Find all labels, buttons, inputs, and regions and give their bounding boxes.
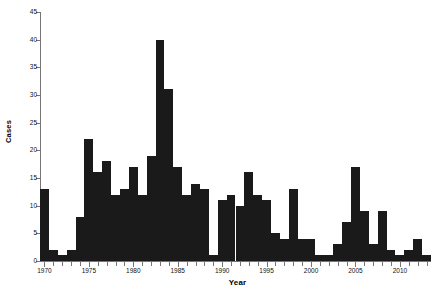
x-tick-minor	[124, 262, 125, 266]
y-tick-label: 5	[33, 230, 37, 237]
y-axis-title-text: Cases	[5, 119, 14, 142]
x-tick-minor	[187, 262, 188, 266]
x-tick-minor	[107, 262, 108, 266]
bar	[236, 206, 245, 261]
bar	[387, 250, 396, 261]
x-tick-label: 2010	[393, 268, 407, 275]
bar	[49, 250, 58, 261]
bar	[404, 250, 413, 261]
bar	[244, 172, 253, 261]
bar	[333, 244, 342, 261]
y-tick-label: 30	[30, 92, 37, 99]
x-tick-minor	[116, 262, 117, 266]
bar	[307, 239, 316, 261]
bar	[298, 239, 307, 261]
x-tick-minor	[382, 262, 383, 266]
bar	[120, 189, 129, 261]
x-tick-label: 2005	[348, 268, 362, 275]
x-tick-minor	[53, 262, 54, 266]
x-tick-minor	[302, 262, 303, 266]
bar	[413, 239, 422, 261]
bar	[164, 89, 173, 261]
x-tick-minor	[329, 262, 330, 266]
x-tick-minor	[258, 262, 259, 266]
x-tick-minor	[275, 262, 276, 266]
bar	[209, 255, 218, 261]
x-axis-title: Year	[38, 278, 437, 287]
x-tick-minor	[293, 262, 294, 266]
y-tick-label: 10	[30, 202, 37, 209]
x-tick-minor	[373, 262, 374, 266]
x-tick-minor	[160, 262, 161, 266]
bar	[369, 244, 378, 261]
y-axis-title: Cases	[0, 0, 18, 262]
bar	[395, 255, 404, 261]
x-tick-label: 1985	[171, 268, 185, 275]
y-tick-label: 20	[30, 147, 37, 154]
bar	[111, 195, 120, 261]
bar	[40, 189, 49, 261]
bar	[76, 217, 85, 261]
x-tick-minor	[427, 262, 428, 266]
x-tick-minor	[142, 262, 143, 266]
bar	[67, 250, 76, 261]
y-tick-label: 25	[30, 119, 37, 126]
bar	[129, 167, 138, 261]
bar	[84, 139, 93, 261]
bar-chart: Cases 051015202530354045 197019751980198…	[0, 0, 439, 298]
x-tick-label: 2000	[304, 268, 318, 275]
y-tick-label: 40	[30, 36, 37, 43]
plot-area: 051015202530354045 197019751980198519901…	[40, 12, 431, 262]
y-tick-label: 35	[30, 64, 37, 71]
bar	[191, 184, 200, 261]
bar	[182, 195, 191, 261]
x-tick-label: 1995	[259, 268, 273, 275]
x-tick-minor	[249, 262, 250, 266]
bar	[253, 195, 262, 261]
x-tick-label: 1970	[37, 268, 51, 275]
bar	[342, 222, 351, 261]
x-tick-minor	[391, 262, 392, 266]
bar	[360, 211, 369, 261]
bar	[262, 200, 271, 261]
bar	[289, 189, 298, 261]
bar	[200, 189, 209, 261]
x-tick-minor	[169, 262, 170, 266]
bar	[102, 161, 111, 261]
bar	[351, 167, 360, 261]
y-tick-label: 45	[30, 9, 37, 16]
y-tick-label: 0	[33, 258, 37, 265]
x-tick-minor	[213, 262, 214, 266]
x-tick-minor	[418, 262, 419, 266]
x-tick-minor	[409, 262, 410, 266]
x-tick-minor	[62, 262, 63, 266]
bar	[218, 200, 227, 261]
bar	[138, 195, 147, 261]
x-tick-minor	[71, 262, 72, 266]
bar	[324, 255, 333, 261]
x-tick-minor	[151, 262, 152, 266]
y-tick-label: 15	[30, 175, 37, 182]
x-tick-label: 1980	[126, 268, 140, 275]
bar	[227, 195, 236, 261]
bar	[93, 172, 102, 261]
x-tick-minor	[204, 262, 205, 266]
bar	[58, 255, 67, 261]
x-tick-label: 1975	[82, 268, 96, 275]
x-tick-minor	[338, 262, 339, 266]
bar	[147, 156, 156, 261]
bar	[422, 255, 431, 261]
x-tick-minor	[284, 262, 285, 266]
bar	[315, 255, 324, 261]
x-tick-label: 1990	[215, 268, 229, 275]
x-tick-minor	[196, 262, 197, 266]
bar	[173, 167, 182, 261]
x-tick-minor	[231, 262, 232, 266]
x-tick-minor	[240, 262, 241, 266]
x-tick-minor	[80, 262, 81, 266]
x-tick-minor	[347, 262, 348, 266]
bar	[156, 40, 165, 261]
bar	[271, 233, 280, 261]
x-tick-minor	[98, 262, 99, 266]
x-tick-minor	[320, 262, 321, 266]
